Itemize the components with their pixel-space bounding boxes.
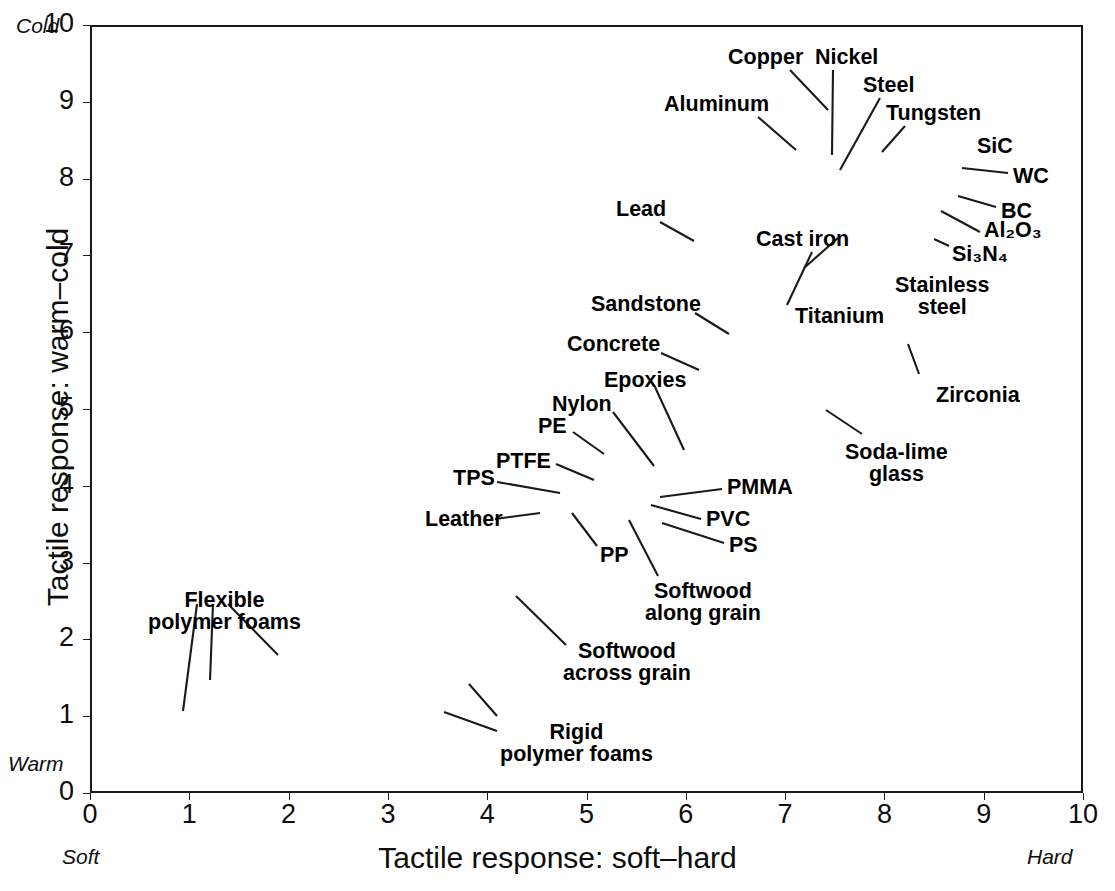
- data-point-label: Sandstone: [591, 293, 701, 315]
- x-axis-tick-label: 8: [854, 799, 914, 830]
- data-point-label: Cast iron: [756, 228, 849, 250]
- data-point-label: Nickel: [815, 46, 878, 68]
- x-axis-tick-label: 9: [954, 799, 1014, 830]
- data-point-label: Tungsten: [886, 102, 981, 124]
- axis-note-cold: Cold: [16, 14, 59, 38]
- data-point-label: Softwood across grain: [563, 640, 691, 684]
- x-axis-tick-label: 2: [259, 799, 319, 830]
- data-point-label: Epoxies: [604, 369, 686, 391]
- x-axis-tick-label: 5: [557, 799, 617, 830]
- y-axis-tick: [83, 179, 90, 180]
- data-point-label: PTFE: [496, 450, 551, 472]
- chart-page: 012345678910012345678910: [0, 0, 1115, 891]
- data-point-label: Nylon: [552, 393, 612, 415]
- y-axis-tick: [83, 255, 90, 256]
- data-point-label: Rigid polymer foams: [500, 721, 653, 765]
- axis-note-warm: Warm: [8, 752, 64, 776]
- axis-note-soft: Soft: [62, 845, 99, 869]
- data-point-label: TPS: [453, 467, 495, 489]
- y-axis-tick: [83, 332, 90, 333]
- data-point-label: PVC: [706, 508, 750, 530]
- data-point-label: Al₂O₃: [984, 219, 1042, 241]
- data-point-label: WC: [1013, 165, 1049, 187]
- x-axis-tick-label: 7: [755, 799, 815, 830]
- data-point-label: Steel: [863, 74, 914, 96]
- y-axis-title: Tactile response: warm–cold: [41, 37, 75, 797]
- data-point-label: Flexible polymer foams: [148, 589, 301, 633]
- data-point-label: Copper: [728, 46, 803, 68]
- data-point-label: PMMA: [727, 476, 793, 498]
- y-axis-tick: [83, 409, 90, 410]
- data-point-label: Stainless steel: [895, 274, 989, 318]
- data-point-label: Soda-lime glass: [845, 441, 948, 485]
- x-axis-tick-label: 4: [457, 799, 517, 830]
- y-axis-tick: [83, 793, 90, 794]
- data-point-label: Titanium: [795, 305, 884, 327]
- y-axis-tick: [83, 639, 90, 640]
- data-point-label: SiC: [977, 135, 1013, 157]
- data-point-label: Si₃N₄: [952, 243, 1008, 265]
- y-axis-tick: [83, 102, 90, 103]
- data-point-label: Softwood along grain: [645, 580, 761, 624]
- data-point-label: Zirconia: [936, 384, 1020, 406]
- data-point-label: Leather: [425, 508, 503, 530]
- data-point-label: PE: [538, 415, 567, 437]
- x-axis-tick-label: 3: [358, 799, 418, 830]
- data-point-label: Aluminum: [664, 93, 769, 115]
- data-point-label: PP: [600, 544, 629, 566]
- axis-note-hard: Hard: [1027, 845, 1073, 869]
- x-axis-tick-label: 1: [159, 799, 219, 830]
- data-point-label: Concrete: [567, 333, 660, 355]
- y-axis-tick: [83, 486, 90, 487]
- x-axis-title: Tactile response: soft–hard: [0, 841, 1115, 875]
- x-axis-tick-label: 6: [656, 799, 716, 830]
- y-axis-tick: [83, 563, 90, 564]
- y-axis-tick: [83, 716, 90, 717]
- y-axis-tick: [83, 25, 90, 26]
- data-point-label: Lead: [616, 198, 666, 220]
- data-point-label: PS: [729, 534, 758, 556]
- x-axis-tick-label: 10: [1053, 799, 1113, 830]
